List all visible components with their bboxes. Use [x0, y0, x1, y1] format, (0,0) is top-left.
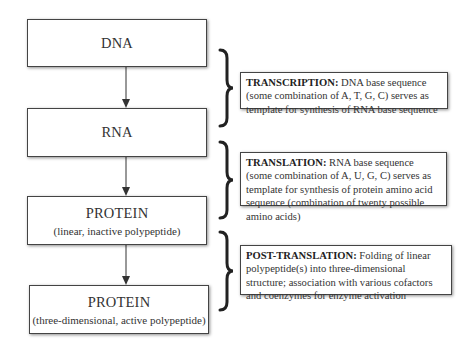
arrow-protein-to-active-protein — [122, 245, 130, 285]
translation-note: TRANSLATION: RNA base sequence (some com… — [240, 152, 447, 206]
rna-box: RNA — [27, 108, 207, 157]
transcription-note: TRANSCRIPTION: DNA base sequence (some c… — [240, 72, 448, 109]
brace-translation-icon — [220, 142, 233, 218]
brace-post-translation-icon — [220, 232, 233, 310]
protein-active-subtitle: (three-dimensional, active polypeptide) — [32, 314, 205, 326]
brace-transcription-icon — [220, 50, 233, 126]
arrow-dna-to-rna — [122, 67, 130, 108]
transcription-label: TRANSCRIPTION: — [246, 77, 338, 88]
protein-linear-box: PROTEIN (linear, inactive polypeptide) — [27, 196, 207, 245]
protein-linear-subtitle: (linear, inactive polypeptide) — [54, 225, 181, 237]
dna-title: DNA — [101, 35, 133, 52]
protein-linear-title: PROTEIN — [86, 205, 149, 222]
rna-title: RNA — [101, 124, 132, 141]
translation-label: TRANSLATION: — [246, 157, 326, 168]
dna-box: DNA — [27, 19, 207, 67]
post-translation-label: POST-TRANSLATION: — [246, 250, 357, 261]
protein-active-box: PROTEIN (three-dimensional, active polyp… — [29, 285, 209, 334]
post-translation-note: POST-TRANSLATION: Folding of linear poly… — [240, 245, 452, 295]
arrow-rna-to-protein — [122, 157, 130, 196]
protein-active-title: PROTEIN — [88, 294, 151, 311]
